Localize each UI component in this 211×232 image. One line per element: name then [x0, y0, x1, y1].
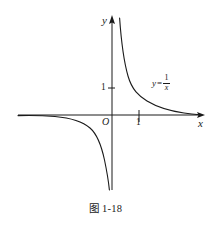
hyperbola-branch-positive: [120, 18, 200, 115]
curve-equation-annotation: y = 1 x: [152, 74, 170, 92]
y-axis-label: y: [102, 15, 107, 26]
equation-equals-sign: =: [157, 79, 162, 88]
equation-lhs: y: [152, 79, 156, 88]
figure-container: y x O 1 1 y = 1 x 图 1-18: [0, 0, 211, 232]
origin-label: O: [102, 117, 109, 127]
y-axis: [109, 15, 115, 190]
equation-fraction: 1 x: [163, 74, 170, 92]
x-axis-tick-label-1: 1: [136, 118, 141, 128]
fraction-numerator: 1: [164, 74, 170, 83]
coordinate-plot: [0, 0, 211, 200]
y-axis-tick-label-1: 1: [101, 83, 106, 93]
figure-caption: 图 1-18: [0, 203, 211, 216]
hyperbola-branch-negative: [18, 115, 109, 190]
plot-area: y x O 1 1 y = 1 x: [0, 0, 211, 200]
fraction-denominator: x: [164, 84, 170, 93]
x-axis-label: x: [198, 118, 203, 129]
